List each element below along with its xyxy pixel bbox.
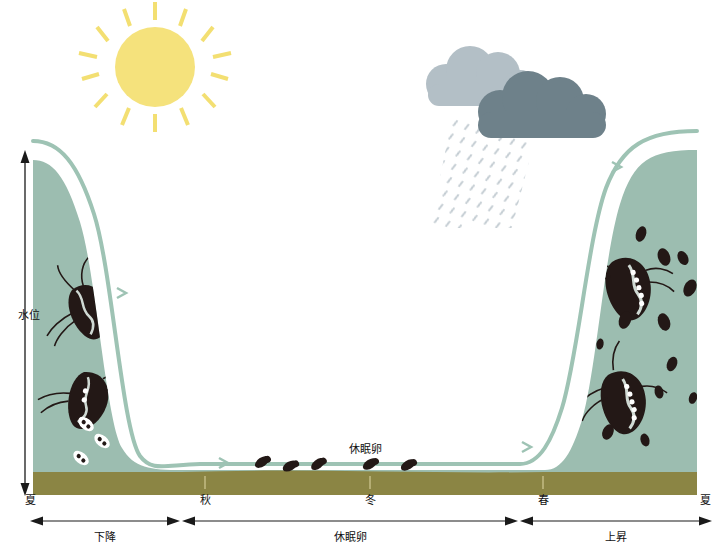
phase-label-decline: 下降	[94, 528, 116, 544]
phase-label-dormant: 休眠卵	[334, 528, 367, 544]
season-tick-summer-start: 夏	[25, 491, 36, 507]
sun-icon	[79, 2, 231, 132]
season-tick-autumn: 秋	[200, 491, 211, 507]
season-tick-summer-end: 夏	[700, 491, 711, 507]
curve-direction-ticks	[117, 162, 621, 468]
pond-water-level-diagram	[0, 0, 720, 550]
phase-axis-group	[30, 517, 712, 526]
phase-arrow-rise	[520, 517, 712, 526]
water-level-axis	[21, 150, 30, 496]
phase-arrow-dormant	[182, 517, 518, 526]
season-tick-spring: 春	[538, 491, 549, 507]
water-level-axis-label: 水位	[18, 310, 32, 322]
phase-arrow-decline	[30, 517, 180, 526]
figure-root: 水位 休眠卵 夏 秋 冬 春 夏 下降 休眠卵 上昇	[0, 0, 720, 550]
phase-label-rise: 上昇	[605, 528, 627, 544]
season-tick-winter: 冬	[365, 491, 376, 507]
dormant-eggs-annotation: 休眠卵	[349, 440, 382, 456]
